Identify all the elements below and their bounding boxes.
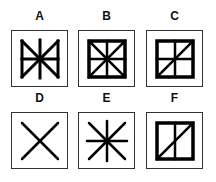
option-label: A — [11, 9, 68, 23]
option-label: C — [146, 9, 203, 23]
option-a[interactable]: A — [11, 9, 68, 89]
rectangle-with-vertical-and-diagonal-icon — [147, 113, 202, 168]
option-label: D — [11, 91, 68, 105]
option-frame — [11, 112, 68, 169]
option-label: F — [146, 91, 203, 105]
option-c[interactable]: C — [146, 9, 203, 89]
bowtie-with-cross-icon — [12, 31, 67, 86]
option-frame — [146, 112, 203, 169]
eight-point-star-icon — [79, 113, 134, 168]
option-f[interactable]: F — [146, 91, 203, 171]
option-d[interactable]: D — [11, 91, 68, 171]
square-with-cross-and-diagonals-icon — [79, 31, 134, 86]
square-with-cross-and-one-diagonal-icon — [147, 31, 202, 86]
option-label: B — [78, 9, 135, 23]
option-frame — [146, 30, 203, 87]
option-label: E — [78, 91, 135, 105]
option-frame — [78, 30, 135, 87]
option-frame — [11, 30, 68, 87]
x-cross-icon — [12, 113, 67, 168]
option-frame — [78, 112, 135, 169]
option-e[interactable]: E — [78, 91, 135, 171]
option-b[interactable]: B — [78, 9, 135, 89]
